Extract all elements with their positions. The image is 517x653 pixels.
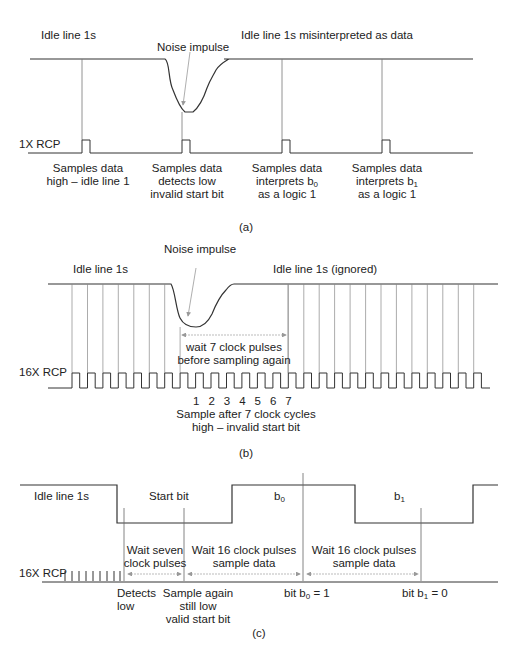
panel-a-signal <box>30 59 473 112</box>
panel-b-signal <box>48 284 498 327</box>
panel-c-sample-again-label: Sample again still low valid start bit <box>163 587 233 626</box>
panel-c-wait16-first-label: Wait 16 clock pulses sample data <box>192 544 296 570</box>
panel-a-caption: (a) <box>239 221 253 233</box>
panel-a-noise-arrow <box>183 52 190 105</box>
panel-b-noise-label: Noise impulse <box>164 243 236 256</box>
panel-c-clock-label: 16X RCP <box>19 567 67 580</box>
panel-a-sample-lines <box>82 59 382 140</box>
panel-a-idle-right-label: Idle line 1s misinterpreted as data <box>241 29 413 42</box>
panel-b-noise-arrow <box>188 268 196 316</box>
panel-a-sample-3: Samples data interprets b0 as a logic 1 <box>252 162 322 201</box>
panel-b-caption: (b) <box>239 447 253 459</box>
panel-c-bit0-label: bit b0 = 1 <box>284 587 330 600</box>
panel-b-16x-clock <box>48 373 490 388</box>
panel-c-16x-ticks <box>65 571 120 581</box>
panel-b-count-labels: 1234567 <box>193 395 301 408</box>
panel-c-start-bit-label: Start bit <box>149 490 189 503</box>
panel-a-sample-2: Samples data detects low invalid start b… <box>150 162 224 201</box>
panel-b-wait-label: wait 7 clock pulses before sampling agai… <box>177 341 290 367</box>
panel-c-idle-label: Idle line 1s <box>34 490 89 503</box>
panel-a-idle-left-label: Idle line 1s <box>41 29 96 42</box>
panel-a-sample-4: Samples data interprets b1 as a logic 1 <box>352 162 422 201</box>
panel-b-sample-label: Sample after 7 clock cycles high – inval… <box>176 408 315 434</box>
panel-c-caption: (c) <box>252 627 265 639</box>
panel-c-b1-label: b1 <box>394 490 405 503</box>
panel-b-idle-right-label: Idle line 1s (ignored) <box>273 263 377 276</box>
panel-b-clock-label: 16X RCP <box>19 366 67 379</box>
panel-c-signal <box>20 485 498 523</box>
panel-a-noise-label: Noise impulse <box>157 41 229 54</box>
panel-c-bit1-label: bit b1 = 0 <box>402 587 448 600</box>
panel-a-1x-clock <box>28 140 473 153</box>
panel-c-detects-low-label: Detects low <box>117 587 156 613</box>
panel-c-b0-label: b0 <box>274 490 285 503</box>
panel-c-wait16-second-label: Wait 16 clock pulses sample data <box>312 544 416 570</box>
panel-c-wait-seven-label: Wait seven clock pulses <box>124 544 187 570</box>
panel-b-idle-left-label: Idle line 1s <box>73 263 128 276</box>
panel-a-clock-label: 1X RCP <box>19 138 61 151</box>
panel-a-sample-1: Samples data high – idle line 1 <box>46 162 129 188</box>
